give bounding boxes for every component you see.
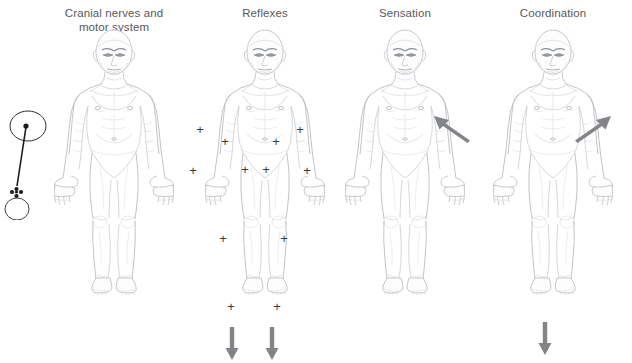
reflex-plus-mark: + bbox=[218, 232, 228, 245]
reflex-plus-mark: + bbox=[272, 300, 282, 313]
body-figure-coordination bbox=[493, 26, 613, 301]
reflex-plus-mark: + bbox=[195, 123, 205, 136]
reflex-plus-mark: + bbox=[271, 135, 281, 148]
panel-title-coordination: Coordination bbox=[488, 6, 618, 20]
reflex-plus-mark: + bbox=[302, 164, 312, 177]
panel-sensation: Sensation bbox=[340, 0, 470, 363]
neurological-examination-figure: Cranial nerves and motor system Reflexes… bbox=[0, 0, 632, 363]
arrow-diagonal-up-right-icon bbox=[573, 113, 613, 143]
reflex-plus-mark: + bbox=[261, 163, 271, 176]
reflex-plus-mark: + bbox=[295, 123, 305, 136]
panel-reflexes: Reflexes bbox=[190, 0, 340, 363]
body-figure-sensation bbox=[345, 26, 465, 301]
body-figure-cranial-nerves bbox=[54, 26, 174, 301]
reflex-plus-mark: + bbox=[220, 135, 230, 148]
reflex-hammer-icon bbox=[4, 108, 62, 220]
panel-coordination: Coordination bbox=[488, 0, 618, 363]
panel-title-sensation: Sensation bbox=[340, 6, 470, 20]
arrow-diagonal-up-left-icon bbox=[432, 113, 472, 143]
reflex-plus-mark: + bbox=[240, 163, 250, 176]
figure-caption bbox=[6, 350, 626, 362]
reflex-plus-mark: + bbox=[188, 164, 198, 177]
reflex-plus-mark: + bbox=[226, 300, 236, 313]
reflex-plus-mark: + bbox=[279, 232, 289, 245]
panel-title-reflexes: Reflexes bbox=[190, 6, 340, 20]
